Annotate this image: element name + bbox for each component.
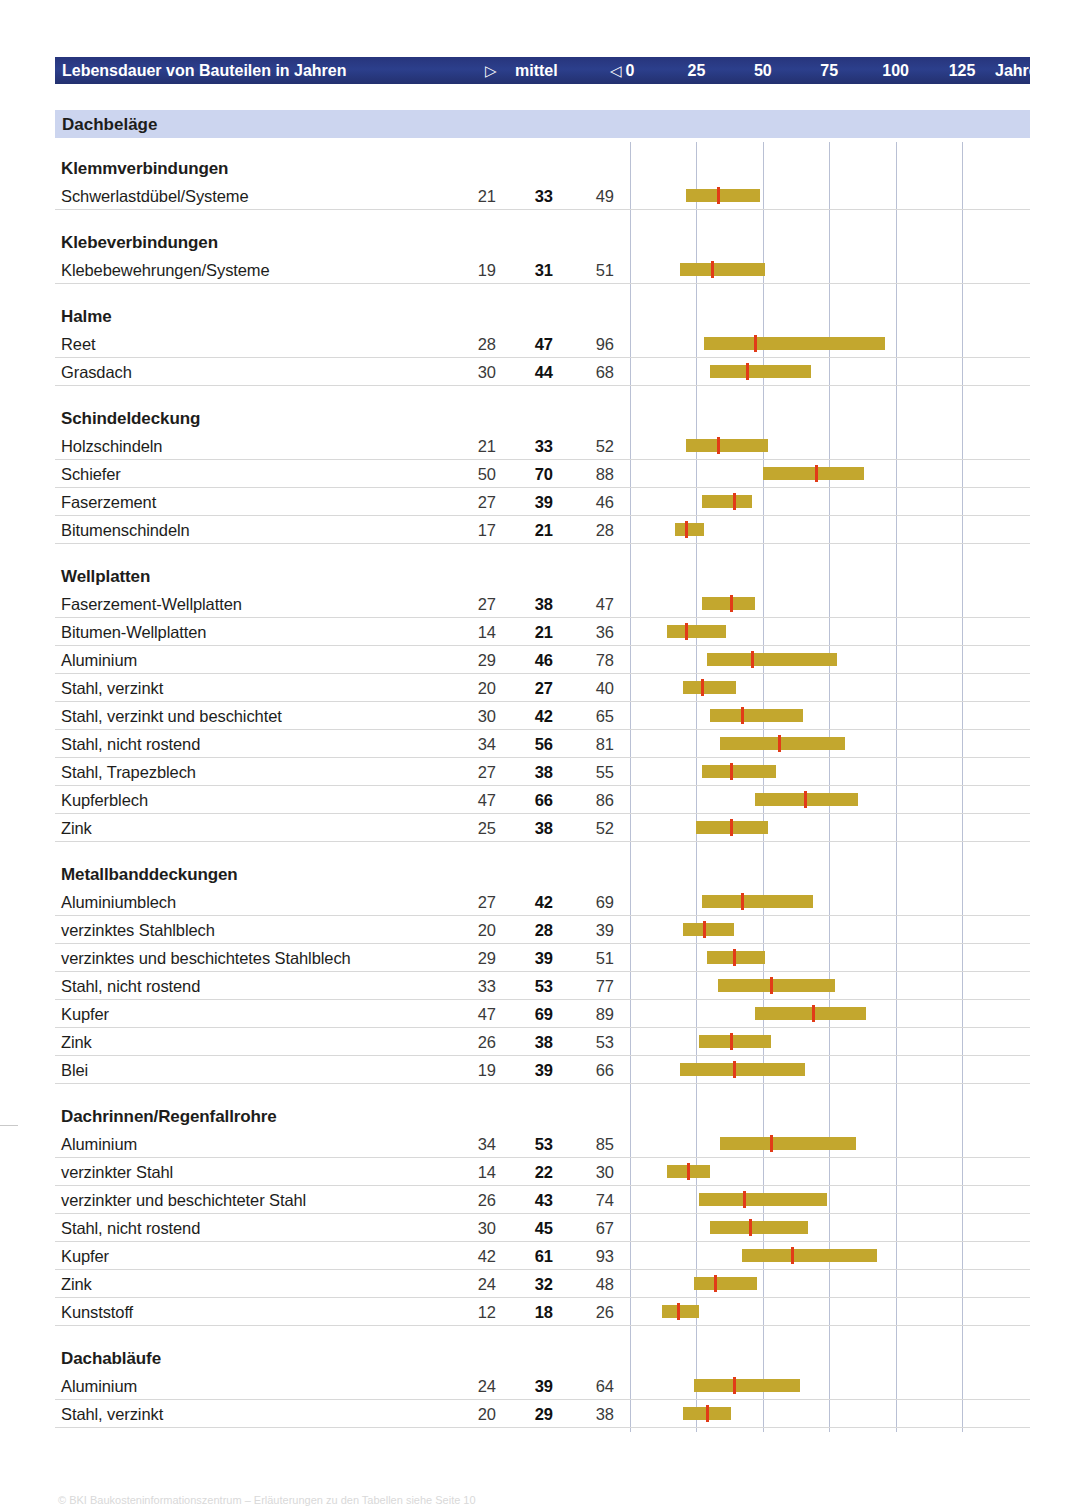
table-row[interactable]: Zink253852 bbox=[55, 814, 1030, 842]
table-row[interactable]: Zink243248 bbox=[55, 1270, 1030, 1298]
range-bar bbox=[707, 951, 765, 964]
value-max: 55 bbox=[554, 758, 614, 785]
table-body: KlemmverbindungenSchwerlastdübel/Systeme… bbox=[55, 152, 1030, 1428]
table-row[interactable]: verzinkter und beschichteter Stahl264374 bbox=[55, 1186, 1030, 1214]
range-bar bbox=[702, 495, 752, 508]
value-max: 36 bbox=[554, 618, 614, 645]
axis-tick-0: 0 bbox=[608, 57, 652, 84]
range-bar bbox=[680, 1063, 805, 1076]
table-title: Lebensdauer von Bauteilen in Jahren bbox=[62, 57, 347, 84]
mean-marker bbox=[812, 1005, 815, 1022]
mean-marker bbox=[743, 1191, 746, 1208]
value-min: 27 bbox=[436, 488, 496, 515]
value-mittel: 28 bbox=[493, 916, 553, 943]
value-mittel: 38 bbox=[493, 814, 553, 841]
table-header-bar: Lebensdauer von Bauteilen in Jahren ▷ mi… bbox=[55, 57, 1030, 84]
table-row[interactable]: Faserzement-Wellplatten273847 bbox=[55, 590, 1030, 618]
range-bar bbox=[699, 1193, 826, 1206]
table-row[interactable]: Reet284796 bbox=[55, 330, 1030, 358]
table-row[interactable]: verzinktes Stahlblech202839 bbox=[55, 916, 1030, 944]
value-min: 26 bbox=[436, 1028, 496, 1055]
mean-marker bbox=[717, 187, 720, 204]
row-label: Schiefer bbox=[61, 460, 121, 487]
value-max: 65 bbox=[554, 702, 614, 729]
range-bar bbox=[710, 1221, 808, 1234]
table-row[interactable]: Aluminium345385 bbox=[55, 1130, 1030, 1158]
mean-marker bbox=[804, 791, 807, 808]
lifespan-table-sheet: Lebensdauer von Bauteilen in Jahren ▷ mi… bbox=[0, 0, 1072, 1510]
row-label: Aluminium bbox=[61, 1130, 137, 1157]
table-row[interactable]: Zink263853 bbox=[55, 1028, 1030, 1056]
value-mittel: 44 bbox=[493, 358, 553, 385]
range-plot bbox=[630, 330, 1030, 357]
group-heading-label: Dachabläufe bbox=[61, 1342, 161, 1369]
table-row[interactable]: Aluminiumblech274269 bbox=[55, 888, 1030, 916]
value-mittel: 46 bbox=[493, 646, 553, 673]
table-row[interactable]: verzinkter Stahl142230 bbox=[55, 1158, 1030, 1186]
table-row[interactable]: Kupferblech476686 bbox=[55, 786, 1030, 814]
table-row[interactable]: Stahl, verzinkt202938 bbox=[55, 1400, 1030, 1428]
table-row[interactable]: Faserzement273946 bbox=[55, 488, 1030, 516]
table-row[interactable]: Bitumenschindeln172128 bbox=[55, 516, 1030, 544]
range-plot bbox=[630, 888, 1030, 915]
row-label: verzinkter und beschichteter Stahl bbox=[61, 1186, 306, 1213]
axis-tick-125: 125 bbox=[940, 57, 984, 84]
table-row[interactable]: Stahl, verzinkt202740 bbox=[55, 674, 1030, 702]
mean-marker bbox=[706, 1405, 709, 1422]
value-min: 27 bbox=[436, 758, 496, 785]
table-row[interactable]: Klebebewehrungen/Systeme193151 bbox=[55, 256, 1030, 284]
table-row[interactable]: Blei193966 bbox=[55, 1056, 1030, 1084]
value-mittel: 53 bbox=[493, 972, 553, 999]
range-plot bbox=[630, 516, 1030, 543]
range-plot bbox=[630, 1000, 1030, 1027]
table-row[interactable]: Schwerlastdübel/Systeme213349 bbox=[55, 182, 1030, 210]
row-label: Faserzement bbox=[61, 488, 156, 515]
table-row[interactable]: Aluminium294678 bbox=[55, 646, 1030, 674]
table-row[interactable]: Kupfer476989 bbox=[55, 1000, 1030, 1028]
table-row[interactable]: Stahl, nicht rostend335377 bbox=[55, 972, 1030, 1000]
value-max: 74 bbox=[554, 1186, 614, 1213]
section-label: Dachbeläge bbox=[62, 110, 157, 138]
row-label: Faserzement-Wellplatten bbox=[61, 590, 242, 617]
range-bar bbox=[707, 653, 837, 666]
table-row[interactable]: verzinktes und beschichtetes Stahlblech2… bbox=[55, 944, 1030, 972]
value-min: 21 bbox=[436, 182, 496, 209]
table-row[interactable]: Stahl, nicht rostend345681 bbox=[55, 730, 1030, 758]
range-bar bbox=[720, 1137, 855, 1150]
table-row[interactable]: Stahl, Trapezblech273855 bbox=[55, 758, 1030, 786]
mean-marker bbox=[714, 1275, 717, 1292]
value-min: 19 bbox=[436, 256, 496, 283]
range-plot bbox=[630, 674, 1030, 701]
value-min: 24 bbox=[436, 1372, 496, 1399]
value-mittel: 38 bbox=[493, 758, 553, 785]
group-heading: Klemmverbindungen bbox=[55, 152, 1030, 182]
range-plot bbox=[630, 432, 1030, 459]
group-heading-label: Halme bbox=[61, 300, 112, 327]
value-max: 77 bbox=[554, 972, 614, 999]
table-row[interactable]: Kunststoff121826 bbox=[55, 1298, 1030, 1326]
table-row[interactable]: Holzschindeln213352 bbox=[55, 432, 1030, 460]
table-row[interactable]: Stahl, verzinkt und beschichtet304265 bbox=[55, 702, 1030, 730]
row-label: Holzschindeln bbox=[61, 432, 162, 459]
mean-marker bbox=[741, 893, 744, 910]
table-row[interactable]: Bitumen-Wellplatten142136 bbox=[55, 618, 1030, 646]
value-max: 51 bbox=[554, 256, 614, 283]
range-bar bbox=[686, 439, 768, 452]
mean-marker bbox=[711, 261, 714, 278]
value-min: 42 bbox=[436, 1242, 496, 1269]
table-row[interactable]: Aluminium243964 bbox=[55, 1372, 1030, 1400]
table-row[interactable]: Stahl, nicht rostend304567 bbox=[55, 1214, 1030, 1242]
value-min: 34 bbox=[436, 730, 496, 757]
value-max: 96 bbox=[554, 330, 614, 357]
table-row[interactable]: Schiefer507088 bbox=[55, 460, 1030, 488]
value-max: 85 bbox=[554, 1130, 614, 1157]
row-label: Stahl, nicht rostend bbox=[61, 730, 200, 757]
value-mittel: 39 bbox=[493, 1056, 553, 1083]
table-row[interactable]: Grasdach304468 bbox=[55, 358, 1030, 386]
value-mittel: 38 bbox=[493, 1028, 553, 1055]
range-plot bbox=[630, 1400, 1030, 1427]
mean-marker bbox=[754, 335, 757, 352]
table-row[interactable]: Kupfer426193 bbox=[55, 1242, 1030, 1270]
range-plot bbox=[630, 1130, 1030, 1157]
row-label: Kupfer bbox=[61, 1242, 109, 1269]
